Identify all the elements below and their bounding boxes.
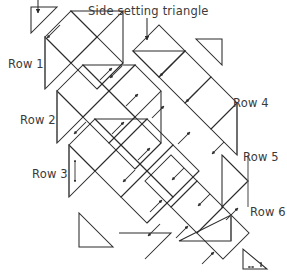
side-setting-triangle: [83, 65, 135, 91]
side-setting-triangle: [69, 145, 95, 197]
quilt-block: [57, 65, 109, 117]
seam-arrow: [138, 148, 150, 160]
seam-arrow: [112, 122, 124, 134]
quilt-layout-diagram: [0, 0, 287, 274]
seam-arrow: [226, 208, 238, 220]
seam-arrow: [152, 106, 164, 118]
quilt-block: [83, 91, 135, 143]
row-5-band: [119, 155, 249, 259]
seam-arrow: [178, 132, 190, 144]
quilt-block: [197, 207, 249, 259]
quilt-block: [45, 11, 97, 63]
seam-arrow: [198, 194, 210, 206]
label-row-3: Row 3: [32, 167, 68, 181]
seam-arrow: [47, 25, 60, 38]
side-setting-triangle: [211, 103, 237, 155]
row-5-edge: [119, 233, 171, 259]
side-setting-triangle: [133, 51, 185, 77]
label-row-2: Row 2: [20, 113, 56, 127]
side-setting-triangle: [179, 215, 231, 241]
seam-arrow: [160, 64, 172, 76]
label-side-setting-triangle: Side setting triangle: [88, 4, 209, 18]
label-row-4: Row 4: [233, 96, 269, 110]
side-setting-triangle: [95, 119, 147, 145]
corner-triangle: [79, 213, 113, 247]
seam-arrow: [176, 226, 188, 238]
quilt-block: [69, 119, 121, 171]
seam-arrow: [202, 252, 214, 264]
seam-arrow: [148, 224, 160, 236]
label-row-6: Row 6: [250, 205, 286, 219]
quilt-block: [95, 145, 147, 197]
side-setting-triangle: [196, 39, 222, 65]
quilt-block: [109, 65, 161, 117]
quilt-block: [71, 37, 123, 89]
quilt-block: [185, 77, 237, 129]
seam-arrow: [126, 94, 138, 106]
corner-triangle-small: [243, 249, 267, 269]
label-row-5: Row 5: [243, 150, 279, 164]
seam-arrow: [186, 90, 198, 102]
quilt-body: [31, 7, 267, 269]
seam-arrow: [212, 142, 224, 154]
row-4-band: [133, 25, 237, 155]
quilt-block: [171, 181, 223, 233]
label-row-1: Row 1: [8, 57, 44, 71]
seam-arrow: [123, 170, 135, 182]
quilt-block: [159, 51, 211, 103]
diagram-page: Side setting triangle Row 1 Row 2 Row 3 …: [0, 0, 287, 274]
seam-arrow: [172, 168, 184, 180]
row-2-band: [57, 65, 161, 169]
